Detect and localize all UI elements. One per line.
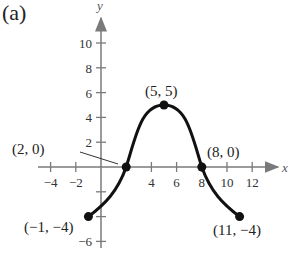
y-tick-label: −6 (78, 234, 92, 249)
y-tick-label: 2 (86, 135, 93, 150)
x-tick-label: 6 (173, 175, 180, 190)
y-tick-label: 4 (86, 110, 93, 125)
label-leader-line (80, 152, 118, 164)
function-graph: y x −4−24681012 108642−6 (−1, −4)(2, 0)(… (0, 0, 288, 257)
point-label: (8, 0) (207, 144, 240, 161)
x-ticks: −4−24681012 (44, 162, 259, 190)
x-tick-label: 10 (221, 175, 234, 190)
data-point (122, 163, 131, 172)
data-point (84, 212, 93, 221)
y-tick-label: 10 (79, 36, 92, 51)
point-label: (5, 5) (145, 83, 178, 100)
point-labels: (−1, −4)(2, 0)(5, 5)(8, 0)(11, −4) (12, 83, 261, 239)
y-axis-label: y (95, 0, 103, 13)
function-curve (88, 105, 239, 217)
y-tick-label: 8 (86, 61, 93, 76)
data-point (160, 101, 169, 110)
x-tick-label: 12 (246, 175, 259, 190)
x-tick-label: −2 (69, 175, 83, 190)
data-point (197, 163, 206, 172)
x-tick-label: 4 (148, 175, 155, 190)
point-label: (11, −4) (213, 222, 261, 239)
data-point (235, 212, 244, 221)
x-tick-label: 8 (199, 175, 206, 190)
y-tick-label: 6 (86, 86, 93, 101)
x-tick-label: −4 (44, 175, 58, 190)
x-axis-label: x (281, 160, 288, 175)
point-label: (2, 0) (12, 141, 45, 158)
point-label: (−1, −4) (24, 219, 73, 236)
